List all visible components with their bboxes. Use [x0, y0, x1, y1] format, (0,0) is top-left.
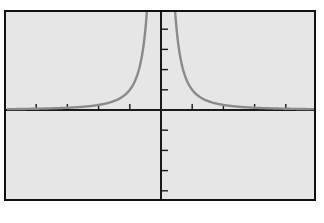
curve-left-branch	[8, 0, 148, 109]
axes	[6, 12, 314, 199]
function-plot	[0, 0, 324, 223]
curve-right-branch	[174, 0, 314, 109]
